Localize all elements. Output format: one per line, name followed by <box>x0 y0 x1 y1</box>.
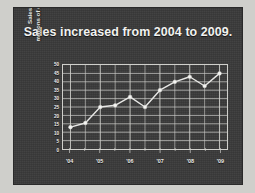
y-axis-tick-labels: 05101520253035404550 <box>44 64 59 150</box>
x-tick-label: '04 <box>66 158 73 164</box>
y-tick-label: 0 <box>57 148 59 153</box>
x-tick-label: '08 <box>187 158 194 164</box>
y-tick-label: 35 <box>54 87 59 92</box>
y-tick-label: 20 <box>54 113 59 118</box>
y-tick-label: 25 <box>54 105 59 110</box>
x-axis-tick-labels: '04'05'06'07'08'09 <box>62 158 228 170</box>
page-title: Sales increased from 2004 to 2009. <box>14 25 242 39</box>
y-tick-label: 45 <box>54 70 59 75</box>
x-tick-label: '05 <box>96 158 103 164</box>
x-tick-label: '06 <box>126 158 133 164</box>
y-tick-label: 15 <box>54 122 59 127</box>
slide-frame: Sales increased from 2004 to 2009. Sales… <box>14 8 242 184</box>
y-tick-label: 5 <box>57 139 59 144</box>
y-axis-title-line-1: Sales, <box>26 8 34 58</box>
y-tick-label: 10 <box>54 130 59 135</box>
plot-area <box>62 64 228 150</box>
y-tick-label: 50 <box>54 62 59 67</box>
y-tick-label: 30 <box>54 96 59 101</box>
y-tick-label: 40 <box>54 79 59 84</box>
line-chart: Sales, millions of dollars 0510152025303… <box>20 52 236 176</box>
x-tick-label: '09 <box>217 158 224 164</box>
x-tick-label: '07 <box>156 158 163 164</box>
data-series-line <box>63 65 227 149</box>
axis-ticks <box>62 148 228 154</box>
y-axis-title: Sales, millions of dollars <box>26 8 44 58</box>
y-axis-title-line-2: millions of dollars <box>34 8 42 58</box>
